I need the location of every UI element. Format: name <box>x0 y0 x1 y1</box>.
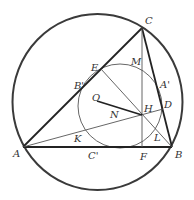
label-B: B <box>174 149 182 160</box>
label-A-prime: A' <box>159 79 170 90</box>
geometry-diagram: C E M B' A' O N H D K L A C' F B <box>0 0 194 200</box>
euler-segment-OH <box>97 101 142 115</box>
label-H: H <box>143 103 153 114</box>
label-C: C <box>145 15 153 26</box>
label-M: M <box>130 56 142 67</box>
label-C-prime: C' <box>88 150 98 161</box>
label-A: A <box>12 148 20 159</box>
label-K: K <box>73 133 82 144</box>
label-E: E <box>90 62 99 73</box>
label-B-prime: B' <box>73 80 84 91</box>
label-D: D <box>163 99 172 110</box>
label-L: L <box>153 132 161 143</box>
label-O: O <box>92 92 100 103</box>
label-N: N <box>109 109 120 120</box>
label-F: F <box>139 151 148 162</box>
